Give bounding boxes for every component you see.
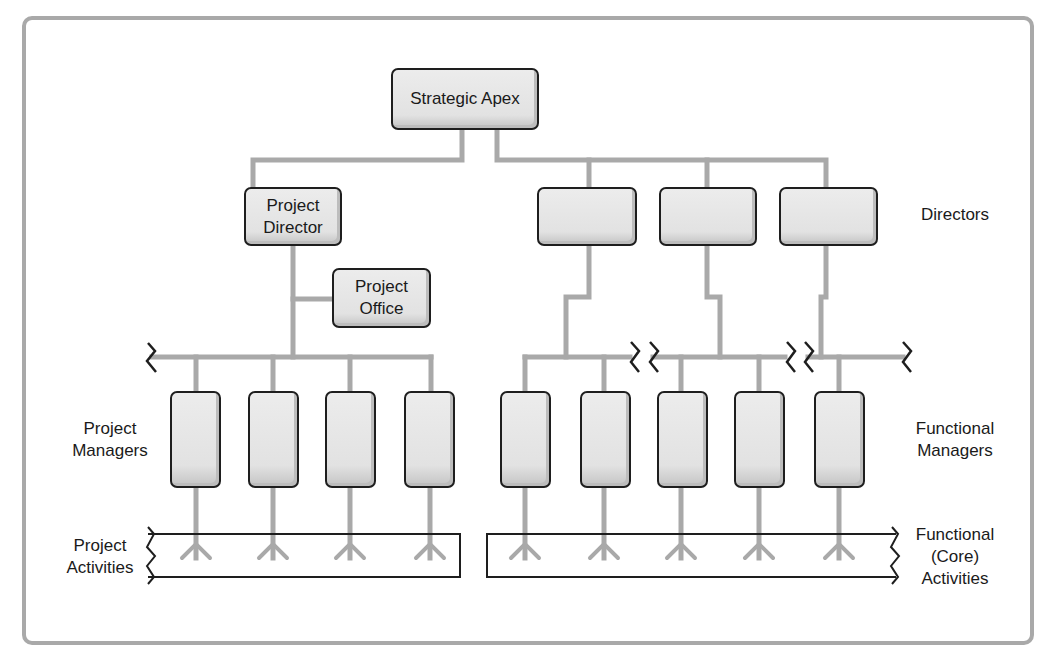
project-director-line2: Director [263,217,323,239]
strategic-apex-label: Strategic Apex [410,88,520,110]
project-manager-node-3 [325,391,376,488]
project-activities-label: Project Activities [45,535,155,579]
functional-managers-line2: Managers [900,440,1010,462]
strategic-apex-node: Strategic Apex [391,68,539,130]
project-managers-line2: Managers [55,440,165,462]
project-director-node: Project Director [244,187,342,246]
project-manager-node-1 [170,391,221,488]
project-managers-line1: Project [55,418,165,440]
functional-managers-line1: Functional [900,418,1010,440]
project-office-line1: Project [355,276,408,298]
functional-manager-node-3 [657,391,708,488]
director-node-2 [659,187,757,246]
director-node-3 [779,187,878,246]
functional-activities-label: Functional (Core) Activities [900,524,1010,590]
project-manager-node-2 [248,391,299,488]
functional-activities-line2: (Core) [900,546,1010,568]
functional-manager-node-2 [580,391,631,488]
project-director-line1: Project [267,195,320,217]
functional-manager-node-5 [814,391,865,488]
director-node-1 [537,187,637,246]
project-activities-line1: Project [45,535,155,557]
functional-activities-line3: Activities [900,568,1010,590]
functional-activities-line1: Functional [900,524,1010,546]
project-office-node: Project Office [332,268,431,328]
project-manager-node-4 [404,391,455,488]
functional-manager-node-4 [734,391,785,488]
project-managers-label: Project Managers [55,418,165,462]
project-office-line2: Office [359,298,403,320]
functional-manager-node-1 [500,391,551,488]
project-activities-line2: Activities [45,557,155,579]
functional-managers-label: Functional Managers [900,418,1010,462]
directors-label: Directors [905,204,1005,226]
